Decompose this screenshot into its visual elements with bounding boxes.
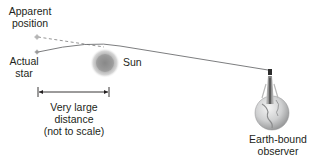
actual-star-icon [35,50,40,55]
apparent-position-line2: position [4,17,56,29]
sun-icon [90,48,120,78]
apparent-position-label: Apparent position [4,5,56,29]
distance-line2: distance [34,113,114,125]
distance-dimension [38,87,109,97]
distance-line1: Very large [34,101,114,113]
apparent-star-icon [34,34,40,40]
observer-line1: Earth-bound [240,133,316,145]
observer-label: Earth-bound observer [240,133,316,157]
light-path [38,44,268,70]
actual-star-label: Actual star [4,55,44,79]
observer-line2: observer [240,145,316,157]
apparent-position-line1: Apparent [4,5,56,17]
actual-star-line1: Actual [4,55,44,67]
distance-label: Very large distance (not to scale) [34,101,114,137]
sun-label: Sun [123,56,142,68]
distance-line3: (not to scale) [34,125,114,137]
actual-star-line2: star [4,67,44,79]
